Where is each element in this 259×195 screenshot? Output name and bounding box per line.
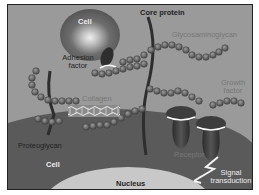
label-core-protein: Core protein [140, 9, 185, 17]
label-collagen: Collagen [82, 95, 112, 103]
label-cell-bottom: Cell [46, 161, 60, 169]
label-nucleus: Nucleus [116, 180, 145, 188]
label-adhesion-factor: Adhesion factor [58, 54, 98, 70]
label-proteoglycan: Proteoglycan [18, 142, 62, 150]
label-glycosaminoglycan: Glycosaminoglycan [172, 31, 237, 39]
label-cell-top: Cell [78, 18, 92, 26]
label-growth-factor: Growth factor [218, 79, 248, 95]
proteoglycan-diagram: Cell Adhesion factor Core protein Glycos… [7, 4, 253, 190]
label-signal-transduction: Signal transduction [208, 169, 253, 185]
label-receptor: Receptor [174, 151, 204, 159]
collagen-helix [68, 105, 120, 117]
